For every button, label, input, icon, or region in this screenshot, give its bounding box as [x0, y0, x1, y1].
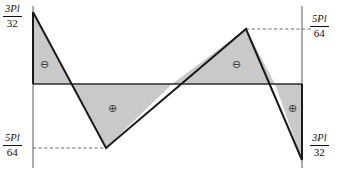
region-positive-1 [72, 84, 172, 148]
circled-plus-icon-right: ⊕ [288, 103, 297, 114]
circled-plus-icon-left: ⊕ [108, 103, 117, 114]
label-bottom-left: 5Pl 64 [3, 133, 22, 158]
label-top-right: 5Pl 64 [310, 14, 329, 39]
region-negative-2 [172, 29, 275, 84]
label-bottom-left-numerator: 5Pl [3, 133, 22, 145]
label-top-left: 3Pl 32 [3, 4, 22, 29]
label-top-right-denominator: 64 [310, 27, 329, 39]
label-bottom-left-denominator: 64 [3, 146, 22, 158]
shear-diagram-container: 3Pl 32 5Pl 64 5Pl 64 3Pl 32 ⊖ ⊕ ⊖ ⊕ [0, 0, 346, 174]
label-bottom-right-denominator: 32 [310, 146, 329, 158]
label-top-left-denominator: 32 [3, 17, 22, 29]
circled-minus-icon-left: ⊖ [40, 59, 49, 70]
circled-minus-icon-right: ⊖ [232, 59, 241, 70]
label-top-right-numerator: 5Pl [310, 14, 329, 26]
label-bottom-right-numerator: 3Pl [310, 133, 329, 145]
label-bottom-right: 3Pl 32 [310, 133, 329, 158]
shear-diagram-canvas [0, 0, 346, 174]
label-top-left-numerator: 3Pl [3, 4, 22, 16]
